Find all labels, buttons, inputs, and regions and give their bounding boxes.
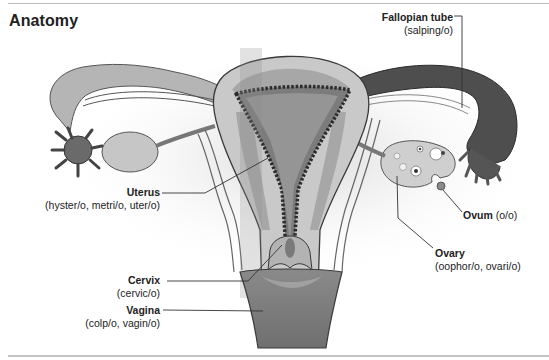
reproductive-anatomy-illustration xyxy=(0,0,549,360)
left-ovary xyxy=(102,132,158,172)
label-roots: (colp/o, vagin/o) xyxy=(85,317,160,330)
label-ovum: Ovum (o/o) xyxy=(463,209,517,222)
label-roots: (salping/o) xyxy=(382,24,453,37)
vagina-leader xyxy=(163,310,263,311)
label-vagina: Vagina (colp/o, vagin/o) xyxy=(85,304,160,329)
label-name: Cervix xyxy=(117,274,160,287)
label-fallopian-tube: Fallopian tube (salping/o) xyxy=(382,11,453,36)
label-name: Ovum xyxy=(463,209,496,221)
vagina xyxy=(240,269,342,348)
label-name: Ovary xyxy=(435,247,521,260)
label-name: Vagina xyxy=(85,304,160,317)
label-ovary: Ovary (oophor/o, ovari/o) xyxy=(435,247,521,272)
label-uterus: Uterus (hyster/o, metri/o, uter/o) xyxy=(45,186,160,211)
label-roots: (hyster/o, metri/o, uter/o) xyxy=(45,199,160,212)
ovum xyxy=(437,182,445,190)
label-roots: (cervic/o) xyxy=(117,287,160,300)
label-name: Uterus xyxy=(45,186,160,199)
bottom-rule xyxy=(8,355,549,357)
label-roots: (o/o) xyxy=(496,209,518,221)
label-cervix: Cervix (cervic/o) xyxy=(117,274,160,299)
label-name: Fallopian tube xyxy=(382,11,453,24)
label-roots: (oophor/o, ovari/o) xyxy=(435,260,521,273)
